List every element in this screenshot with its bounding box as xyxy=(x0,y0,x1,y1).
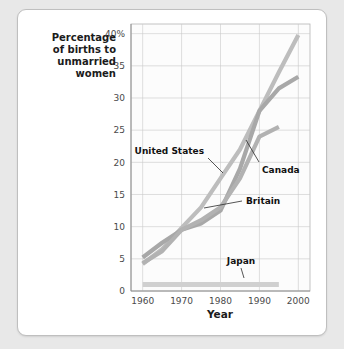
annotation-label-britain: Britain xyxy=(246,196,280,206)
x-tick-label-1990: 1990 xyxy=(248,296,271,306)
chart-stage: 0510152025303540% 19601970198019902000 P… xyxy=(18,10,328,337)
x-axis-title: Year xyxy=(206,308,234,320)
x-tick-label-1960: 1960 xyxy=(131,296,154,306)
x-axis-tick-labels: 19601970198019902000 xyxy=(131,296,310,306)
y-axis-title-line-3: unmarried xyxy=(57,56,116,67)
y-tick-label-25: 25 xyxy=(114,125,125,135)
annotation-label-japan: Japan xyxy=(226,256,255,266)
y-axis-title-line-2: of births to xyxy=(53,44,116,55)
y-axis-title-line-4: women xyxy=(76,68,116,79)
figure-card: 0510152025303540% 19601970198019902000 P… xyxy=(17,9,327,336)
x-tick-label-1980: 1980 xyxy=(209,296,232,306)
y-tick-label-15: 15 xyxy=(114,190,125,200)
y-axis-title-line-1: Percentage xyxy=(52,32,117,43)
y-tick-label-30: 30 xyxy=(114,93,126,103)
y-tick-label-0: 0 xyxy=(119,286,125,296)
x-tick-label-2000: 2000 xyxy=(287,296,310,306)
x-tick-label-1970: 1970 xyxy=(170,296,193,306)
annotation-label-united-states: United States xyxy=(135,146,204,156)
annotation-label-canada: Canada xyxy=(262,165,300,175)
y-axis-title: Percentage of births to unmarried women xyxy=(52,32,117,79)
line-chart: 0510152025303540% 19601970198019902000 P… xyxy=(18,10,328,337)
y-tick-label-20: 20 xyxy=(114,158,126,168)
y-tick-label-10: 10 xyxy=(114,222,126,232)
y-tick-label-5: 5 xyxy=(119,254,125,264)
